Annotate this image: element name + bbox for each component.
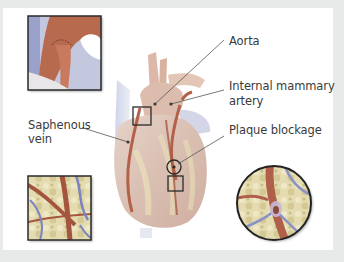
label-plaque-blockage: Plaque blockage <box>229 124 322 137</box>
label-internal-mammary-artery-line1: Internal mammary <box>229 80 335 93</box>
label-saphenous-vein-line1: Saphenous <box>28 119 91 132</box>
label-aorta: Aorta <box>229 35 260 48</box>
label-saphenous-vein-line2: vein <box>28 133 52 146</box>
label-internal-mammary-artery-line2: artery <box>229 95 263 108</box>
heart <box>114 52 210 238</box>
